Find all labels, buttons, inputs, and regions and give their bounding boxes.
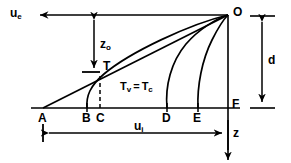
label-d: d [268, 54, 275, 68]
figure-container: ue zo T O d F Tv=Tc A B C D E ui z [0, 0, 291, 163]
label-point-T: T [103, 60, 110, 72]
label-z-axis: z [233, 127, 239, 141]
label-ui: ui [134, 120, 144, 134]
straight-profile-line-AO [43, 15, 228, 108]
label-ue: ue [10, 7, 22, 21]
label-point-E: E [193, 112, 201, 124]
label-point-B: B [82, 112, 91, 124]
label-temperature-equality: Tv=Tc [120, 81, 153, 94]
label-point-F: F [232, 98, 239, 110]
label-zo: zo [100, 38, 111, 52]
label-point-D: D [162, 112, 171, 124]
label-point-A: A [38, 112, 47, 124]
label-point-C: C [96, 112, 105, 124]
label-point-O: O [233, 6, 242, 18]
